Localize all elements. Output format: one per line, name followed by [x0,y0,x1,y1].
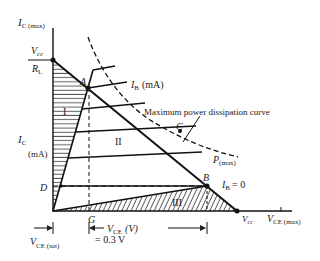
ic-axis-label: IC [17,133,27,147]
ib-zero-label: IB= 0 [221,179,245,192]
ic-max-label: IC (max) [17,16,45,30]
region-i-label: I [63,106,66,117]
point-a [86,86,91,91]
rl-den-label: RL [31,63,42,76]
ib-label: IB(mA) [130,79,164,92]
point-vcc [235,209,240,214]
point-b-label: B [203,172,209,183]
point-vcc-rl [51,58,56,63]
transistor-characteristics-diagram: IC (max) Vcc RL IC (mA) D A C B G I II I… [0,0,320,261]
point-d [59,184,63,188]
region-ii-label: II [115,136,122,147]
point-g-label: G [88,214,95,225]
vcc-x-label: Vcc [242,214,253,225]
vce-sat-label: VCE (sat) [30,236,60,250]
vcc-num-label: Vcc [31,45,44,58]
region-iii-label: III [172,197,182,208]
point-c-label: C [176,121,183,132]
pmax-annotation-arrow [183,116,200,142]
point-a-label: A [79,76,87,87]
ic-unit-label: (mA) [28,149,48,159]
point-d-label: D [39,182,48,193]
vce-max-label: VCE (max) [267,213,301,226]
pmax-curve [88,37,238,157]
pmax-annotation: Maximum power dissipation curve [144,107,270,117]
vce-sat-value: = 0.3 V [95,234,126,245]
point-b [205,184,210,189]
